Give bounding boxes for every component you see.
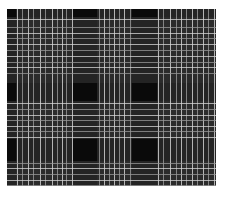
horizontal-stripe <box>7 50 216 51</box>
horizontal-stripe <box>7 56 216 57</box>
vertical-stripe <box>119 9 120 186</box>
horizontal-stripe <box>7 103 216 104</box>
horizontal-stripe <box>7 185 216 186</box>
tartan-plaid-image <box>7 9 216 186</box>
horizontal-stripe <box>7 73 216 74</box>
vertical-stripe <box>208 9 209 186</box>
horizontal-stripe <box>7 163 216 164</box>
vertical-stripe <box>170 9 171 186</box>
vertical-stripe <box>57 9 58 186</box>
vertical-stripe <box>197 9 198 186</box>
vertical-stripe <box>62 9 63 186</box>
vertical-stripe <box>72 9 73 186</box>
vertical-stripe <box>181 9 182 186</box>
vertical-stripe <box>22 9 23 186</box>
horizontal-stripe <box>7 19 216 20</box>
horizontal-stripe <box>7 180 216 181</box>
vertical-stripe <box>28 9 29 186</box>
vertical-stripe <box>33 9 34 186</box>
horizontal-stripe <box>7 33 216 34</box>
vertical-stripe <box>176 9 177 186</box>
horizontal-stripe <box>7 109 216 110</box>
vertical-stripe <box>130 9 131 186</box>
horizontal-stripe <box>7 62 216 63</box>
vertical-stripe <box>203 9 204 186</box>
horizontal-stripe <box>7 168 216 169</box>
vertical-stripe <box>186 9 187 186</box>
vertical-stripe <box>17 9 18 186</box>
vertical-stripe <box>114 9 115 186</box>
horizontal-stripe <box>7 137 216 138</box>
vertical-stripe <box>192 9 193 186</box>
vertical-stripe <box>214 9 215 186</box>
horizontal-stripe <box>7 38 216 39</box>
vertical-stripe <box>52 9 53 186</box>
vertical-stripe <box>124 9 125 186</box>
vertical-stripe <box>99 9 100 186</box>
horizontal-stripe <box>7 44 216 45</box>
horizontal-stripe <box>7 131 216 132</box>
horizontal-stripe <box>7 126 216 127</box>
vertical-stripe <box>109 9 110 186</box>
horizontal-stripe <box>7 174 216 175</box>
horizontal-stripe <box>7 115 216 116</box>
horizontal-stripe <box>7 27 216 28</box>
horizontal-stripe <box>7 120 216 121</box>
vertical-stripe <box>45 9 46 186</box>
vertical-stripe <box>158 9 159 186</box>
vertical-stripe <box>104 9 105 186</box>
vertical-stripe <box>66 9 67 186</box>
horizontal-stripe <box>7 67 216 68</box>
vertical-stripe <box>40 9 41 186</box>
vertical-stripe <box>163 9 164 186</box>
